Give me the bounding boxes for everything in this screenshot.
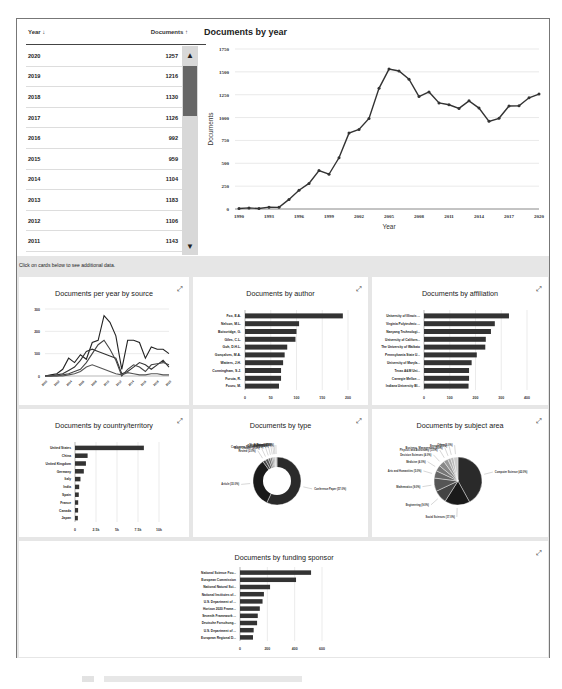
svg-text:University of Illinois ...: University of Illinois ... bbox=[386, 314, 420, 318]
documents-by-year-chart: Documents by year 0250500750100012501500… bbox=[201, 19, 549, 255]
card-source[interactable]: Documents per year by source ⤢ 010020030… bbox=[19, 277, 189, 405]
svg-text:Spain: Spain bbox=[62, 493, 71, 497]
svg-text:Year: Year bbox=[382, 223, 396, 230]
svg-text:1250: 1250 bbox=[219, 93, 230, 98]
svg-text:1996: 1996 bbox=[294, 214, 305, 219]
svg-text:Conference Paper (57.0%): Conference Paper (57.0%) bbox=[314, 487, 346, 491]
svg-text:National Natural Sci...: National Natural Sci... bbox=[203, 585, 236, 589]
svg-text:Canada: Canada bbox=[59, 509, 71, 513]
table-row[interactable]: 2016992 bbox=[26, 128, 182, 149]
table-row[interactable]: 20171126 bbox=[26, 108, 182, 129]
svg-text:500: 500 bbox=[222, 161, 230, 166]
svg-text:Seventh Framework ...: Seventh Framework ... bbox=[202, 614, 236, 618]
documents-cell: 992 bbox=[169, 135, 178, 141]
svg-text:Italy: Italy bbox=[64, 477, 71, 481]
table-row[interactable]: 20181130 bbox=[26, 87, 182, 108]
svg-text:Boisvridge, G.: Boisvridge, G. bbox=[218, 330, 241, 334]
svg-text:2002: 2002 bbox=[354, 214, 365, 219]
table-scrollbar[interactable]: ▲ ▼ bbox=[182, 46, 198, 255]
year-cell: 2013 bbox=[28, 197, 40, 203]
svg-text:China: China bbox=[62, 454, 71, 458]
svg-text:600: 600 bbox=[319, 647, 325, 651]
svg-text:Article (33.0%): Article (33.0%) bbox=[221, 482, 239, 486]
svg-text:United Kingdom: United Kingdom bbox=[46, 462, 72, 466]
svg-text:Japan: Japan bbox=[61, 516, 71, 520]
svg-text:United States: United States bbox=[50, 446, 71, 450]
svg-text:Medicine (4.0%): Medicine (4.0%) bbox=[406, 460, 426, 464]
documents-cell: 1143 bbox=[166, 238, 178, 244]
svg-text:Deutsche Forschung...: Deutsche Forschung... bbox=[202, 621, 236, 625]
svg-text:National Institutes of...: National Institutes of... bbox=[202, 593, 236, 597]
table-row[interactable]: 20201257 bbox=[26, 46, 182, 67]
svg-text:2008: 2008 bbox=[90, 379, 98, 387]
donut-chart: Conference Paper (57.0%)Article (33.0%)R… bbox=[193, 409, 368, 537]
svg-text:2018: 2018 bbox=[152, 379, 160, 387]
multi-line-chart: 0100200300200020022004200620082010201220… bbox=[19, 277, 189, 405]
svg-text:300: 300 bbox=[34, 308, 40, 312]
card-author[interactable]: Documents by author ⤢ 050100150200Fox, E… bbox=[193, 277, 368, 405]
year-cell: 2019 bbox=[28, 73, 40, 79]
svg-text:1500: 1500 bbox=[219, 70, 230, 75]
line-chart: 0250500750100012501500175019901993199619… bbox=[201, 19, 549, 255]
svg-text:100: 100 bbox=[447, 396, 453, 400]
bar-chart: 02.5k5k7.5k10kUnited StatesChinaUnited K… bbox=[19, 409, 189, 537]
svg-text:Gonçalves, M.A.: Gonçalves, M.A. bbox=[215, 353, 241, 357]
year-cell: 2017 bbox=[28, 115, 40, 121]
table-row[interactable]: 20111143 bbox=[26, 231, 182, 252]
scrollbar-thumb[interactable] bbox=[183, 66, 197, 116]
svg-text:Engineering (9.0%): Engineering (9.0%) bbox=[406, 503, 429, 507]
card-country[interactable]: Documents by country/territory ⤢ 02.5k5k… bbox=[19, 409, 189, 537]
svg-text:Carnegie Mellon ...: Carnegie Mellon ... bbox=[392, 377, 420, 381]
svg-text:Furuta, R.: Furuta, R. bbox=[225, 377, 241, 381]
table-row[interactable]: 2015959 bbox=[26, 149, 182, 170]
card-funding[interactable]: Documents by funding sponsor ⤢ 020040060… bbox=[19, 541, 548, 657]
svg-text:200: 200 bbox=[473, 396, 479, 400]
svg-text:400: 400 bbox=[292, 647, 298, 651]
table-row[interactable]: 20121106 bbox=[26, 211, 182, 232]
scroll-up-icon[interactable]: ▲ bbox=[182, 48, 198, 62]
year-cell: 2011 bbox=[28, 238, 40, 244]
svg-text:University of Maryla...: University of Maryla... bbox=[387, 361, 420, 365]
svg-text:0: 0 bbox=[423, 396, 425, 400]
svg-text:Watters, J.H.: Watters, J.H. bbox=[221, 361, 241, 365]
svg-text:India: India bbox=[63, 485, 71, 489]
svg-text:Fuuru, M.: Fuuru, M. bbox=[226, 384, 241, 388]
svg-text:Other (3.0%): Other (3.0%) bbox=[437, 443, 452, 447]
scroll-down-icon[interactable]: ▼ bbox=[182, 239, 198, 253]
year-cell: 2020 bbox=[28, 53, 40, 59]
svg-text:2020: 2020 bbox=[534, 214, 545, 219]
svg-text:2.5k: 2.5k bbox=[93, 528, 100, 532]
documents-cell: 1183 bbox=[166, 197, 178, 203]
svg-text:2010: 2010 bbox=[103, 379, 111, 387]
svg-text:1750: 1750 bbox=[219, 47, 230, 52]
bar-chart: 0100200300400University of Illinois ...V… bbox=[372, 277, 548, 405]
svg-text:Virginia Polytechnic ...: Virginia Polytechnic ... bbox=[386, 322, 420, 326]
svg-text:250: 250 bbox=[222, 184, 230, 189]
table-row[interactable]: 20191216 bbox=[26, 67, 182, 88]
sort-by-documents-header[interactable]: Documents ↑ bbox=[151, 29, 188, 35]
table-row[interactable]: 20131183 bbox=[26, 190, 182, 211]
svg-text:100: 100 bbox=[294, 396, 300, 400]
table-row[interactable]: 20141104 bbox=[26, 170, 182, 191]
svg-text:2020: 2020 bbox=[165, 379, 173, 387]
svg-text:1000: 1000 bbox=[219, 116, 230, 121]
svg-text:5k: 5k bbox=[115, 528, 119, 532]
svg-text:Indiana University Bl...: Indiana University Bl... bbox=[386, 384, 420, 388]
table-header: Year ↓ Documents ↑ bbox=[26, 19, 206, 45]
svg-text:U.S. Department of ...: U.S. Department of ... bbox=[204, 600, 236, 604]
svg-text:0: 0 bbox=[239, 647, 241, 651]
card-subject[interactable]: Documents by subject area ⤢ Computer Sci… bbox=[372, 409, 548, 537]
svg-text:1993: 1993 bbox=[264, 214, 275, 219]
documents-by-year-table: Year ↓ Documents ↑ 202012572019121620181… bbox=[26, 19, 206, 255]
sort-by-year-header[interactable]: Year ↓ bbox=[28, 29, 45, 35]
pie-chart: Computer Science (42.0%)Social Sciences … bbox=[372, 409, 548, 537]
card-type[interactable]: Documents by type ⤢ Conference Paper (57… bbox=[193, 409, 368, 537]
svg-text:200: 200 bbox=[345, 396, 351, 400]
svg-text:0: 0 bbox=[74, 528, 76, 532]
svg-text:Documents: Documents bbox=[207, 112, 214, 146]
svg-text:U.S. Department of ...: U.S. Department of ... bbox=[204, 629, 236, 633]
svg-text:Short Survey (1.0%): Short Survey (1.0%) bbox=[249, 443, 274, 447]
year-cell: 2015 bbox=[28, 156, 40, 162]
svg-text:2012: 2012 bbox=[115, 379, 123, 387]
card-affiliation[interactable]: Documents by affiliation ⤢ 0100200300400… bbox=[372, 277, 548, 405]
